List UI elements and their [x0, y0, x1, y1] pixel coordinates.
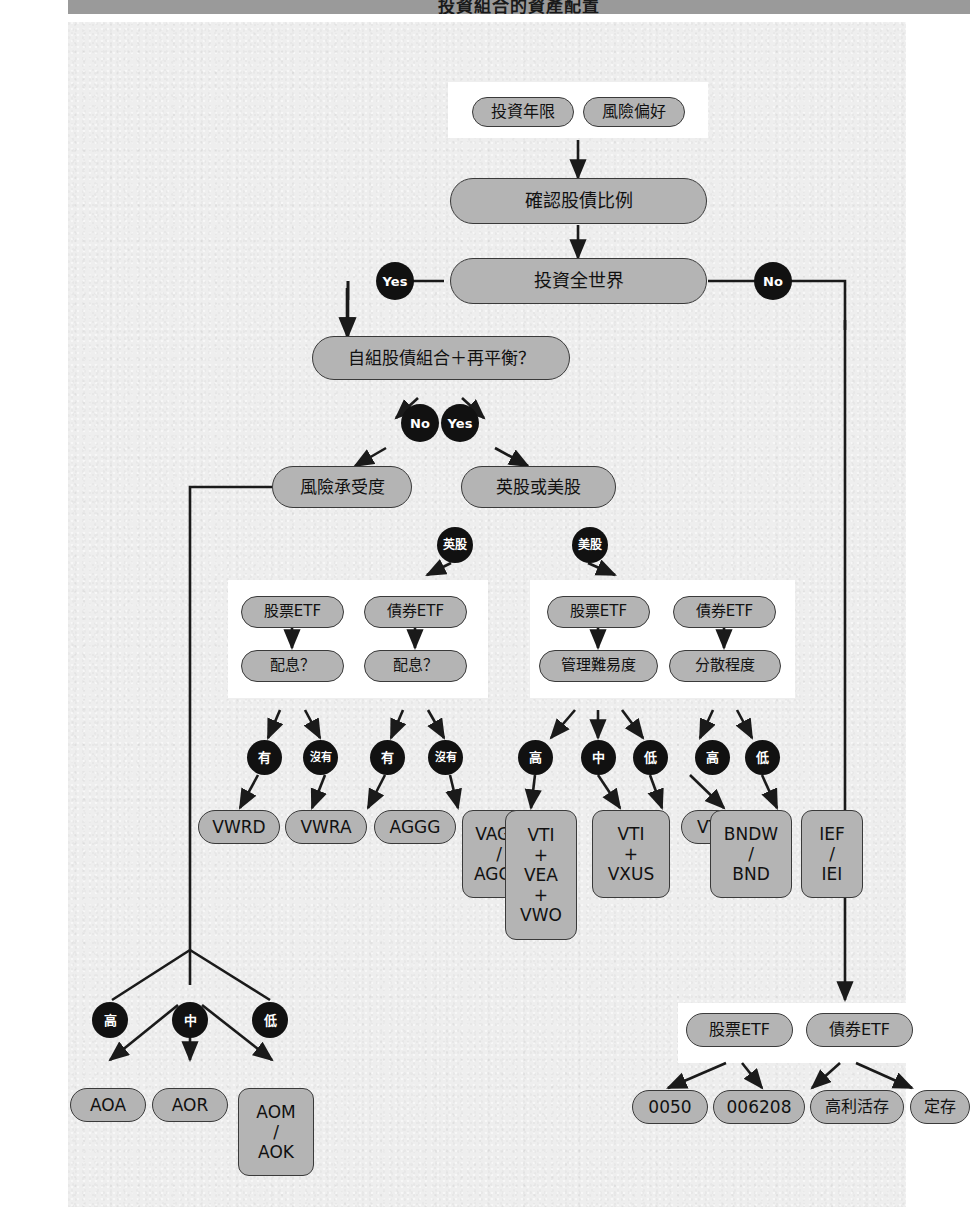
decision-risk-high[interactable]: 高	[92, 1002, 128, 1038]
decision-risk-low[interactable]: 低	[252, 1002, 288, 1038]
decision-diversify-high[interactable]: 高	[695, 740, 730, 775]
node-uk-bond-etf[interactable]: 債券ETF	[364, 596, 467, 628]
node-risk-preference[interactable]: 風險偏好	[583, 97, 685, 127]
node-bndw-bnd[interactable]: BNDW / BND	[710, 810, 792, 898]
node-tw-bond-etf[interactable]: 債券ETF	[806, 1013, 913, 1047]
decision-us-stock[interactable]: 美股	[572, 527, 608, 563]
decision-yes-self-build[interactable]: Yes	[441, 404, 479, 442]
decision-no-dividend-stock[interactable]: 沒有	[303, 740, 338, 775]
decision-has-dividend-bond[interactable]: 有	[370, 740, 405, 775]
node-aor[interactable]: AOR	[152, 1088, 228, 1122]
node-vwra[interactable]: VWRA	[285, 810, 367, 844]
decision-no-dividend-bond[interactable]: 沒有	[428, 740, 463, 775]
node-diversification[interactable]: 分散程度	[669, 650, 781, 682]
node-manage-difficulty[interactable]: 管理難易度	[539, 650, 658, 682]
decision-manage-low[interactable]: 低	[633, 740, 668, 775]
node-uk-dividend-stock[interactable]: 配息？	[241, 650, 344, 682]
node-aoa[interactable]: AOA	[70, 1088, 146, 1122]
title-band: 投資組合的資產配置	[68, 0, 970, 14]
node-uk-dividend-bond[interactable]: 配息？	[364, 650, 467, 682]
node-006208[interactable]: 006208	[713, 1090, 805, 1124]
decision-manage-mid[interactable]: 中	[581, 740, 616, 775]
decision-diversify-low[interactable]: 低	[745, 740, 780, 775]
decision-no-self-build[interactable]: No	[401, 404, 439, 442]
node-risk-tolerance[interactable]: 風險承受度	[272, 466, 412, 508]
decision-has-dividend-stock[interactable]: 有	[247, 740, 282, 775]
node-fixed-deposit[interactable]: 定存	[910, 1090, 970, 1124]
node-us-stock-etf[interactable]: 股票ETF	[547, 596, 650, 628]
node-self-build[interactable]: 自組股債組合＋再平衡？	[312, 336, 570, 380]
decision-no-invest-world[interactable]: No	[754, 262, 792, 300]
node-vti-vea-vwo[interactable]: VTI + VEA + VWO	[505, 810, 577, 940]
node-invest-world[interactable]: 投資全世界	[450, 258, 707, 304]
node-ief-iei[interactable]: IEF / IEI	[801, 810, 863, 898]
node-vti-vxus[interactable]: VTI + VXUS	[592, 810, 670, 898]
decision-uk-stock[interactable]: 英股	[437, 527, 473, 563]
node-high-savings[interactable]: 高利活存	[810, 1090, 904, 1124]
node-tw-stock-etf[interactable]: 股票ETF	[686, 1013, 793, 1047]
flowchart-page: 投資組合的資產配置	[0, 0, 970, 1231]
node-invest-years[interactable]: 投資年限	[472, 97, 574, 127]
node-uk-or-us[interactable]: 英股或美股	[461, 466, 616, 508]
node-confirm-ratio[interactable]: 確認股債比例	[450, 178, 707, 224]
decision-yes-invest-world[interactable]: Yes	[376, 262, 414, 300]
node-aom-aok[interactable]: AOM / AOK	[238, 1088, 314, 1176]
page-title: 投資組合的資產配置	[68, 0, 970, 14]
node-vwrd[interactable]: VWRD	[198, 810, 280, 844]
node-us-bond-etf[interactable]: 債券ETF	[673, 596, 776, 628]
node-0050[interactable]: 0050	[632, 1090, 708, 1124]
decision-risk-mid[interactable]: 中	[172, 1002, 208, 1038]
node-uk-stock-etf[interactable]: 股票ETF	[241, 596, 344, 628]
node-aggg[interactable]: AGGG	[374, 810, 456, 844]
decision-manage-high[interactable]: 高	[518, 740, 553, 775]
